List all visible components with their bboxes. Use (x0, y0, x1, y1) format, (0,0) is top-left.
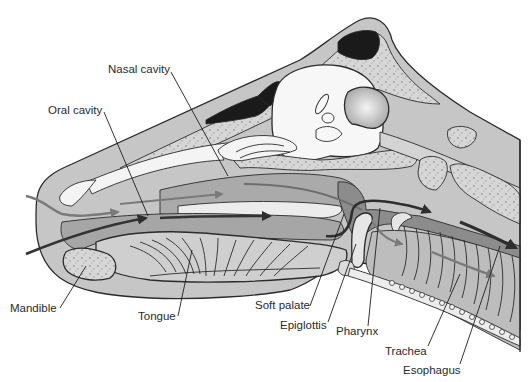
label-oral-cavity: Oral cavity (48, 105, 102, 117)
label-epiglottis: Epiglottis (280, 320, 327, 332)
label-tongue: Tongue (138, 311, 176, 323)
label-soft-palate: Soft palate (255, 300, 310, 312)
label-esophagus: Esophagus (403, 365, 461, 377)
label-pharynx: Pharynx (336, 326, 378, 338)
label-trachea: Trachea (385, 346, 427, 358)
label-mandible: Mandible (10, 303, 57, 315)
oral-cavity-region (61, 213, 347, 282)
label-nasal-cavity: Nasal cavity (108, 64, 170, 76)
equine-head-sagittal-diagram (0, 0, 531, 382)
